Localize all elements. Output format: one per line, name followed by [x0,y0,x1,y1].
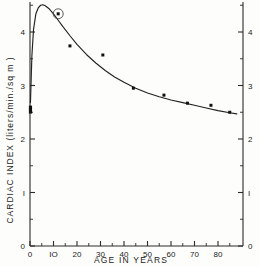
y-tick-label-right: I [248,189,250,198]
fitted-curve [30,5,236,114]
data-point [132,87,135,90]
y-tick-label-right: 4 [248,28,253,37]
y-tick-label-left: 2 [21,135,26,144]
y-tick-label-left: 4 [21,28,26,37]
axes-layer [30,2,243,246]
data-point [101,54,104,57]
chart-figure: 00II2233440IO20304050607080 AGE IN YEARS… [0,0,260,266]
y-tick-label-right: 2 [248,135,253,144]
data-point [228,111,231,114]
y-tick-label-left: 3 [21,82,26,91]
y-tick-label-left: 0 [21,242,26,251]
data-points-layer [53,9,231,114]
x-tick-label: 20 [73,250,82,259]
ticks-layer [30,5,243,246]
data-point [162,94,165,97]
y-tick-label-right: 0 [248,242,253,251]
data-point [209,104,212,107]
data-point-highlighted [57,12,60,15]
y-tick-label-left: I [23,189,25,198]
x-tick-label: 80 [214,250,223,259]
data-point [186,102,189,105]
y-axis-title: CARDIAC INDEX (liters/min./sq m ) [5,56,15,223]
fitted-curve-path [30,5,236,114]
x-axis-title: AGE IN YEARS [94,255,168,265]
x-tick-label: 70 [190,250,199,259]
x-tick-label: IO [49,250,57,259]
y-tick-label-right: 3 [248,82,253,91]
x-tick-label: 0 [28,250,33,259]
data-point [68,44,71,47]
tick-labels-layer: 00II2233440IO20304050607080 [21,28,253,259]
cardiac-index-scatter-plot: 00II2233440IO20304050607080 AGE IN YEARS… [0,0,260,266]
